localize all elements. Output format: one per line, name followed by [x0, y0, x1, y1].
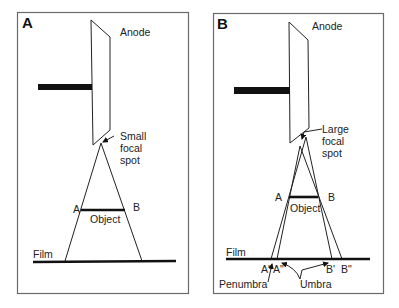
anode-plate: [289, 22, 309, 143]
focal-spot-diagram: A Anode Small focal spot A B Object Film…: [0, 0, 399, 308]
focal-spot-label-2: focal: [120, 142, 142, 154]
point-b-label: B: [328, 191, 335, 203]
object-label: Object: [90, 213, 120, 225]
umbra-arrow-left: [282, 263, 300, 279]
anode-plate: [91, 20, 110, 145]
focal-spot-label-1: Small: [120, 130, 146, 142]
a-double-prime-label: A": [273, 263, 284, 275]
anode-label: Anode: [120, 26, 151, 38]
b-prime-label: B': [326, 263, 335, 275]
focal-spot-label-2: focal: [322, 135, 344, 147]
ray-left: [65, 143, 101, 261]
panel-a: A Anode Small focal spot A B Object Film: [18, 13, 189, 294]
film-label: Film: [226, 246, 246, 258]
film-label: Film: [33, 248, 53, 260]
umbra-arrow-right: [300, 263, 328, 279]
panel-a-letter: A: [22, 14, 33, 31]
umbra-label: Umbra: [300, 278, 332, 290]
b-double-prime-label: B": [341, 263, 352, 275]
panel-b-letter: B: [217, 15, 228, 32]
focal-spot-label-3: spot: [120, 154, 140, 166]
anode-label: Anode: [312, 20, 343, 32]
focal-spot-pointer: [103, 136, 114, 142]
point-a-label: A: [73, 203, 80, 215]
focal-spot-pointer: [302, 129, 322, 139]
cathode-bar: [234, 87, 290, 94]
film-line: [33, 261, 176, 262]
panel-b: B Anode Large focal spot A B Object Film…: [214, 14, 384, 294]
focal-spot-label-3: spot: [322, 147, 342, 159]
penumbra-label: Penumbra: [219, 278, 268, 290]
cathode-bar: [38, 84, 92, 90]
point-b-label: B: [133, 201, 140, 213]
a-prime-label: A': [261, 263, 270, 275]
focal-spot-label-1: Large: [322, 123, 349, 135]
object-label: Object: [290, 202, 320, 214]
point-a-label: A: [275, 191, 282, 203]
